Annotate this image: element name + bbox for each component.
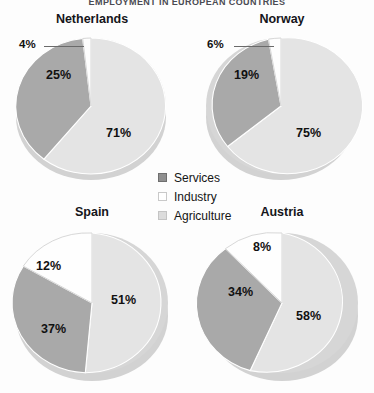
legend-label-industry: Industry xyxy=(174,190,217,204)
legend-item-services: Services xyxy=(158,168,268,187)
pie-austria: 58% 34% 8% xyxy=(198,223,366,383)
panel-title-austria: Austria xyxy=(198,205,366,219)
panel-title-netherlands: Netherlands xyxy=(8,12,176,26)
label-austria-services: 58% xyxy=(296,309,321,323)
label-spain-services: 51% xyxy=(111,293,136,307)
label-netherlands-agriculture: 4% xyxy=(19,38,36,50)
label-austria-agriculture: 8% xyxy=(253,240,271,254)
leader-line-norway xyxy=(234,46,274,47)
label-austria-industry: 34% xyxy=(228,285,253,299)
label-netherlands-services: 71% xyxy=(106,126,131,140)
panel-title-spain: Spain xyxy=(8,205,176,219)
legend-label-services: Services xyxy=(174,171,220,185)
pie-spain: 51% 37% 12% xyxy=(8,223,176,383)
panel-norway: Norway 75% 19% 6% xyxy=(198,12,366,182)
pie-austria-svg xyxy=(198,223,366,383)
label-spain-agriculture: 12% xyxy=(36,259,61,273)
label-norway-agriculture: 6% xyxy=(207,38,224,50)
pie-netherlands-svg xyxy=(8,28,176,180)
label-norway-industry: 19% xyxy=(234,68,259,82)
panel-title-norway: Norway xyxy=(198,12,366,26)
pie-norway-svg xyxy=(198,28,366,180)
pie-netherlands: 71% 25% 4% xyxy=(8,28,176,180)
leader-line-netherlands xyxy=(44,46,84,47)
figure-title: EMPLOYMENT IN EUROPEAN COUNTRIES xyxy=(0,0,374,5)
panel-austria: Austria 58% 34% 8% xyxy=(198,205,366,385)
legend-item-industry: Industry xyxy=(158,187,268,206)
label-netherlands-industry: 25% xyxy=(46,68,71,82)
legend-swatch-services-icon xyxy=(158,173,167,182)
panel-netherlands: Netherlands 71% 25% 4% xyxy=(8,12,176,182)
pie-spain-svg xyxy=(8,223,176,383)
pie-norway: 75% 19% 6% xyxy=(198,28,366,180)
label-spain-industry: 37% xyxy=(41,322,66,336)
legend-swatch-industry-icon xyxy=(158,192,167,201)
panel-spain: Spain 51% 37% 12% xyxy=(8,205,176,385)
pie-chart-figure: EMPLOYMENT IN EUROPEAN COUNTRIES Netherl… xyxy=(0,0,374,393)
label-norway-services: 75% xyxy=(296,126,321,140)
